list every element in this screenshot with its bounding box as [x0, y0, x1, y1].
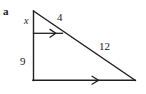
side-label-x: x: [24, 16, 28, 26]
part-label-a: a: [3, 6, 9, 17]
side-label-12: 12: [99, 41, 110, 52]
triangle-hypotenuse: [34, 11, 136, 81]
side-label-9: 9: [20, 56, 26, 67]
side-label-4: 4: [57, 12, 63, 23]
triangle-diagram-svg: [0, 0, 146, 94]
geometry-figure: a x 4 12 9: [0, 0, 146, 94]
